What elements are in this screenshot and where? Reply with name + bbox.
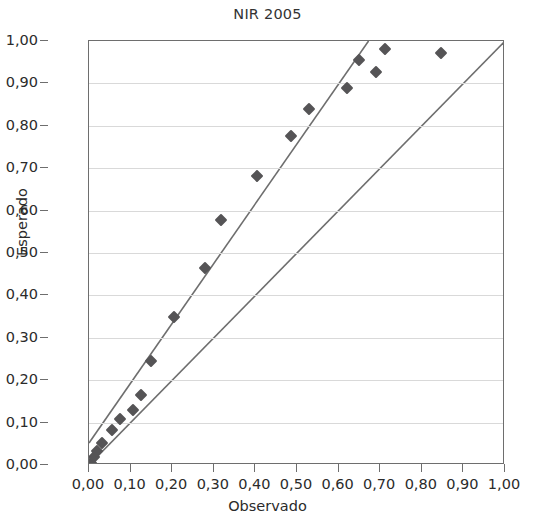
- x-tick-mark: [421, 464, 422, 472]
- x-axis-title: Observado: [0, 498, 535, 514]
- x-tick-label: 0,20: [155, 476, 187, 492]
- y-tick-mark: [40, 82, 48, 83]
- x-tick-mark: [254, 464, 255, 472]
- regression-line: [89, 41, 369, 443]
- x-tick-label: 1,00: [488, 476, 520, 492]
- x-tick-mark: [296, 464, 297, 472]
- plot-area: [88, 40, 504, 464]
- gridline: [89, 295, 503, 296]
- y-tick-label: 0,30: [6, 329, 38, 345]
- x-tick-mark: [504, 464, 505, 472]
- gridline: [89, 126, 503, 127]
- y-axis-title: Esperado: [14, 152, 30, 292]
- chart-figure: NIR 2005 R2= 0,9641 0,000,100,200,300,40…: [0, 0, 535, 528]
- y-tick-label: 1,00: [6, 32, 38, 48]
- y-tick-mark: [40, 379, 48, 380]
- gridline: [89, 423, 503, 424]
- x-tick-mark: [213, 464, 214, 472]
- x-tick-mark: [171, 464, 172, 472]
- y-tick-label: 0,20: [6, 371, 38, 387]
- x-tick-label: 0,00: [72, 476, 104, 492]
- y-tick-mark: [40, 125, 48, 126]
- y-tick-mark: [40, 252, 48, 253]
- y-tick-label: 0,80: [6, 117, 38, 133]
- gridline: [89, 380, 503, 381]
- y-tick-mark: [40, 210, 48, 211]
- gridline: [89, 168, 503, 169]
- x-tick-mark: [130, 464, 131, 472]
- x-tick-mark: [379, 464, 380, 472]
- x-tick-mark: [462, 464, 463, 472]
- x-axis: 0,000,100,200,300,400,500,600,700,800,90…: [0, 464, 535, 524]
- x-tick-label: 0,80: [405, 476, 437, 492]
- x-tick-mark: [338, 464, 339, 472]
- y-tick-label: 0,10: [6, 414, 38, 430]
- y-tick-label: 0,90: [6, 74, 38, 90]
- x-tick-label: 0,30: [197, 476, 229, 492]
- y-tick-mark: [40, 422, 48, 423]
- x-tick-mark: [88, 464, 89, 472]
- x-tick-label: 0,10: [113, 476, 145, 492]
- x-tick-label: 0,40: [238, 476, 270, 492]
- gridline: [89, 253, 503, 254]
- gridline: [89, 211, 503, 212]
- x-tick-label: 0,60: [321, 476, 353, 492]
- x-tick-label: 0,50: [280, 476, 312, 492]
- y-tick-mark: [40, 337, 48, 338]
- y-tick-mark: [40, 40, 48, 41]
- gridline: [89, 338, 503, 339]
- x-tick-label: 0,90: [446, 476, 478, 492]
- y-tick-mark: [40, 294, 48, 295]
- gridline: [89, 83, 503, 84]
- y-tick-mark: [40, 167, 48, 168]
- x-tick-label: 0,70: [363, 476, 395, 492]
